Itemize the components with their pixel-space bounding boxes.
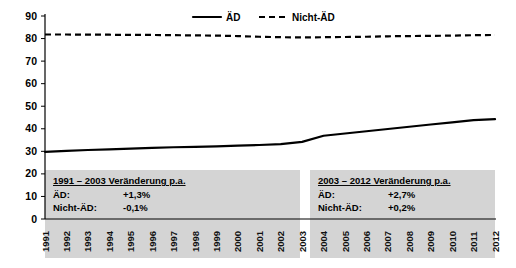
x-axis-year-label: 2007 (382, 231, 393, 252)
legend-label-aed: ÄD (226, 11, 240, 23)
x-axis-year-label: 1999 (211, 231, 222, 252)
right-note-row-key: ÄD: (318, 189, 335, 200)
x-axis-year-label: 2012 (490, 231, 501, 252)
x-axis-year-label: 2009 (425, 231, 436, 252)
x-axis-year-label: 1991 (40, 230, 51, 252)
right-note-row-value: +2,7% (388, 189, 416, 200)
x-axis-year-label: 2011 (468, 231, 479, 252)
x-axis-year-label: 1994 (104, 230, 115, 252)
y-tick-label: 20 (25, 167, 37, 179)
x-axis-year-label: 1997 (168, 231, 179, 252)
x-axis-year-label: 2008 (404, 231, 415, 252)
y-axis-group: 0102030405060708090 (25, 10, 45, 225)
legend-label-nicht-aed: Nicht-ÄD (292, 11, 335, 23)
x-axis-year-label: 2004 (318, 230, 329, 252)
y-tick-label: 10 (25, 190, 37, 202)
y-tick-label: 40 (25, 122, 37, 134)
right-note-row-key: Nicht-ÄD: (318, 202, 362, 213)
y-tick-label: 90 (25, 10, 37, 22)
x-axis-year-label: 1996 (147, 231, 158, 252)
x-axis-year-label: 2002 (275, 231, 286, 252)
right-note-row-value: +0,2% (388, 202, 416, 213)
x-axis-year-label: 1992 (61, 231, 72, 252)
y-tick-label: 50 (25, 100, 37, 112)
left-note-row-key: ÄD: (53, 189, 70, 200)
x-axis-year-label: 2005 (340, 230, 351, 252)
x-axis-year-label: 2010 (447, 231, 458, 252)
y-tick-label: 30 (25, 145, 37, 157)
legend-group: ÄDNicht-ÄD (193, 11, 335, 23)
x-axis-year-label: 2003 (297, 231, 308, 252)
y-tick-label: 0 (31, 213, 37, 225)
left-note-row-key: Nicht-ÄD: (53, 202, 97, 213)
x-axis-year-label: 2001 (254, 230, 265, 252)
left-note-row-value: -0,1% (123, 202, 148, 213)
left-note-title: 1991 – 2003 Veränderung p.a. (53, 175, 186, 186)
chart-container: 0102030405060708090 19911992199319941995… (0, 0, 516, 268)
series-group (45, 35, 495, 152)
y-tick-label: 80 (25, 32, 37, 44)
right-note-title: 2003 – 2012 Veränderung p.a. (318, 175, 451, 186)
line-chart: 0102030405060708090 19911992199319941995… (0, 0, 516, 268)
x-axis-year-label: 1995 (125, 230, 136, 252)
y-tick-label: 60 (25, 77, 37, 89)
y-tick-label: 70 (25, 55, 37, 67)
x-axis-year-label: 2006 (361, 231, 372, 252)
series-line-nicht-aed (45, 35, 495, 38)
left-note-row-value: +1,3% (123, 189, 151, 200)
series-line-aed (45, 119, 495, 152)
x-axis-year-label: 1998 (190, 231, 201, 252)
x-axis-year-label: 1993 (82, 231, 93, 252)
x-axis-year-label: 2000 (232, 231, 243, 252)
